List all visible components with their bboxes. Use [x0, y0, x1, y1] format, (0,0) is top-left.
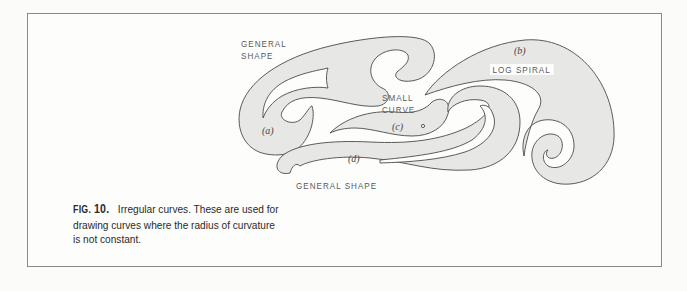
label-text: GENERAL	[241, 38, 287, 50]
caption-line-2: drawing curves where the radius of curva…	[73, 218, 302, 233]
caption-line-3: is not constant.	[73, 232, 302, 247]
label-c: (c)	[392, 121, 403, 132]
figure-number: FIG. 10.	[73, 204, 109, 215]
label-text: SMALL	[382, 92, 415, 104]
caption-text: Irregular curves. These are used for	[118, 203, 279, 215]
label-general-shape-bottom: GENERAL SHAPE	[296, 180, 377, 192]
figure-caption: FIG. 10. Irregular curves. These are use…	[73, 202, 302, 247]
figure-num: 10.	[94, 202, 109, 216]
irregular-curves-illustration	[0, 0, 687, 291]
figure-prefix: FIG.	[73, 204, 91, 215]
label-text: CURVE	[382, 104, 415, 116]
label-d: (d)	[348, 153, 360, 164]
label-b: (b)	[514, 45, 526, 56]
label-text: SHAPE	[241, 50, 287, 62]
caption-line-1: FIG. 10. Irregular curves. These are use…	[73, 202, 302, 218]
curve-c-hole	[421, 124, 424, 127]
label-general-shape-top: GENERAL SHAPE	[241, 38, 287, 62]
label-log-spiral: LOG SPIRAL	[490, 64, 553, 76]
label-small-curve: SMALL CURVE	[382, 92, 415, 116]
label-a: (a)	[262, 125, 274, 136]
label-text: LOG SPIRAL	[490, 64, 553, 75]
